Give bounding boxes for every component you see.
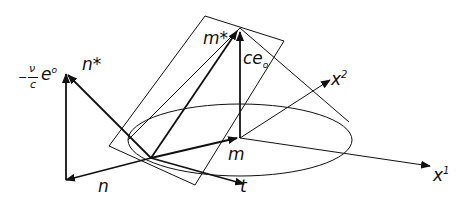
label-ce0-sub: o — [263, 60, 269, 70]
x1-axis — [240, 138, 430, 166]
label-n: n — [98, 178, 109, 195]
label-e0: eo — [41, 66, 57, 83]
label-x1-sup: 1 — [443, 165, 449, 176]
label-e0-num: ν — [29, 63, 35, 74]
label-x2-sup: 2 — [341, 69, 347, 80]
label-ce0: ceo — [243, 50, 268, 70]
label-e0-den: c — [30, 79, 36, 90]
label-x1-text: x — [433, 165, 443, 185]
label-e0-text: e — [41, 64, 51, 84]
label-e0-minus: − — [18, 72, 27, 83]
m-vector — [151, 138, 237, 158]
label-m-star: m* — [203, 30, 228, 47]
m-star-vector — [151, 31, 237, 158]
diagram-lines — [0, 0, 466, 201]
label-ce0-text: ce — [243, 48, 263, 68]
label-x1: x1 — [433, 166, 449, 184]
label-x2-text: x — [331, 69, 341, 89]
tangent-plane — [109, 16, 284, 185]
label-n-star: n* — [82, 56, 101, 73]
label-m: m — [228, 146, 245, 163]
cone-diagram: n* m* ceo x2 x1 m n t − ν c eo — [0, 0, 466, 201]
label-x2: x2 — [331, 70, 347, 88]
label-e0-sup: o — [51, 65, 57, 75]
x2-axis — [240, 80, 330, 138]
label-t: t — [240, 178, 247, 195]
